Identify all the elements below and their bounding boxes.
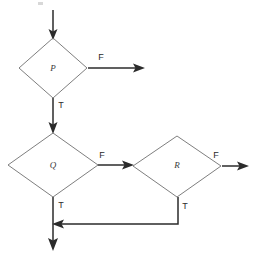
edge-q-false-to-r [98, 161, 134, 170]
flowchart-diagram: P Q R F T F T F T [0, 0, 255, 257]
edge-r-true-to-merge [52, 197, 178, 229]
edge-entry-to-p [49, 10, 58, 40]
branch-label-r-true: T [182, 201, 188, 211]
edge-p-true-to-q [49, 98, 58, 134]
decision-label-p: P [49, 63, 56, 73]
decision-node-r[interactable]: R [133, 136, 221, 197]
branch-label-q-false: F [99, 150, 105, 160]
branch-label-r-false: F [213, 150, 219, 160]
branch-label-p-true: T [58, 100, 64, 110]
branch-label-q-true: T [58, 200, 64, 210]
edge-p-false-out [88, 64, 145, 73]
decision-label-q: Q [50, 160, 57, 170]
scan-speck [38, 2, 43, 5]
decision-node-p[interactable]: P [19, 38, 87, 98]
decision-label-r: R [173, 160, 180, 170]
edge-r-false-out [222, 162, 249, 171]
decision-node-q[interactable]: Q [8, 133, 98, 197]
branch-label-p-false: F [98, 52, 104, 62]
flowchart-canvas-svg: P Q R F T F T F T [0, 0, 255, 257]
